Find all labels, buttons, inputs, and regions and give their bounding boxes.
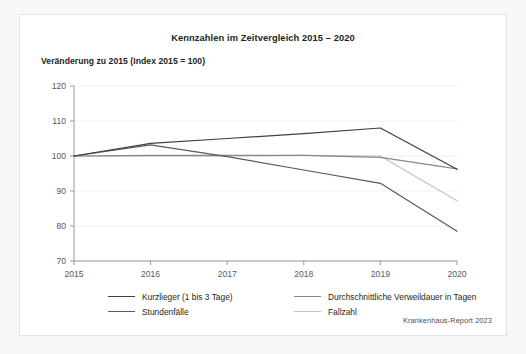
y-tick-label: 70 [56,256,66,266]
legend-label: Durchschnittliche Verweildauer in Tagen [328,292,476,302]
x-tick-label: 2016 [141,269,160,279]
y-tick-label: 120 [52,81,67,91]
y-axis: 708090100110120 [52,81,74,266]
chart-legend: Kurzlieger (1 bis 3 Tage) Durchschnittli… [108,289,498,319]
y-tick-label: 110 [52,116,66,126]
legend-item-fallzahl[interactable]: Fallzahl [294,307,357,317]
x-tick-label: 2015 [64,269,83,279]
x-tick-label: 2019 [371,269,390,279]
gridlines-group [74,86,457,261]
x-tick-label: 2017 [218,269,237,279]
legend-item-stundenfaelle[interactable]: Stundenfälle [108,307,294,317]
legend-swatch-icon [294,296,321,297]
x-tick-label: 2018 [294,269,313,279]
legend-swatch-icon [294,311,321,312]
legend-swatch-icon [108,311,135,312]
legend-row: Kurzlieger (1 bis 3 Tage) Durchschnittli… [108,289,498,304]
series-lines-group [74,128,457,231]
y-tick-label: 100 [52,151,67,161]
series-line [74,145,457,231]
source-note: Krankenhaus-Report 2023 [403,316,492,325]
x-tick-label: 2020 [447,269,466,279]
chart-card: Kennzahlen im Zeitvergleich 2015 – 2020 … [19,14,507,336]
series-line [74,155,457,201]
legend-label: Stundenfälle [142,307,189,317]
y-tick-label: 80 [56,221,66,231]
x-axis: 201520162017201820192020 [64,261,466,279]
legend-item-kurzlieger[interactable]: Kurzlieger (1 bis 3 Tage) [108,292,294,302]
y-tick-label: 90 [56,186,66,196]
legend-item-verweildauer[interactable]: Durchschnittliche Verweildauer in Tagen [294,292,476,302]
legend-label: Fallzahl [328,307,357,317]
legend-swatch-icon [108,296,135,297]
legend-label: Kurzlieger (1 bis 3 Tage) [142,292,233,302]
